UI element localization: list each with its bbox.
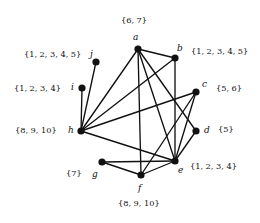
vertex-set-label-f: {8, 9, 10} [118, 199, 160, 207]
graph-edge [141, 92, 196, 175]
graph-vertex-h[interactable] [77, 127, 84, 134]
vertex-name-g: g [92, 170, 98, 179]
graph-edge [175, 131, 196, 161]
vertex-set-label-i: {1, 2, 3, 4} [14, 84, 61, 92]
vertex-name-b: b [177, 44, 183, 53]
vertex-name-f: f [138, 184, 141, 193]
vertex-name-h: h [68, 126, 74, 135]
vertex-name-j: j [90, 50, 93, 59]
vertex-set-label-g: {7} [66, 169, 82, 177]
graph-canvas [0, 0, 260, 223]
graph-vertex-d[interactable] [192, 127, 199, 134]
graph-figure: a{6, 7}b{1, 2, 3, 4, 5}c{5, 6}d{5}e{1, 2… [0, 0, 260, 223]
vertex-set-label-h: {8, 9, 10} [15, 126, 57, 134]
graph-vertex-b[interactable] [171, 54, 178, 61]
vertex-name-e: e [178, 166, 183, 175]
vertex-name-a: a [133, 33, 138, 42]
graph-vertex-e[interactable] [171, 157, 178, 164]
graph-vertex-c[interactable] [192, 88, 199, 95]
vertex-set-label-b: {1, 2, 3, 4, 5} [191, 47, 248, 55]
edge-layer [81, 49, 196, 175]
vertex-set-label-e: {1, 2, 3, 4} [190, 162, 237, 170]
graph-vertex-g[interactable] [98, 158, 105, 165]
graph-vertex-f[interactable] [137, 171, 144, 178]
graph-edge [102, 161, 175, 162]
vertex-name-d: d [204, 126, 210, 135]
vertex-name-i: i [71, 83, 74, 92]
vertex-set-label-a: {6, 7} [121, 16, 147, 24]
graph-edge [102, 162, 141, 175]
vertex-set-label-d: {5} [218, 125, 234, 133]
graph-vertex-a[interactable] [134, 45, 141, 52]
vertex-set-label-c: {5, 6} [216, 84, 242, 92]
vertex-name-c: c [202, 80, 207, 89]
graph-vertex-i[interactable] [78, 84, 85, 91]
vertex-set-label-j: {1, 2, 3, 4, 5} [24, 50, 81, 58]
graph-vertex-j[interactable] [92, 58, 99, 65]
